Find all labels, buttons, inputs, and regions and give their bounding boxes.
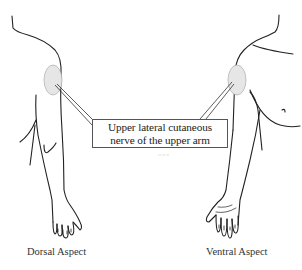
dorsal-aspect-caption: Dorsal Aspect xyxy=(27,246,86,257)
left-nerve-area xyxy=(44,65,62,95)
nerve-label-line1: Upper lateral cutaneous xyxy=(93,121,227,134)
nerve-label-box: Upper lateral cutaneous nerve of the upp… xyxy=(92,119,228,148)
ventral-aspect-caption: Ventral Aspect xyxy=(206,246,268,257)
artist-signature: ~ ~ ~ xyxy=(158,153,169,158)
dorsal-figure xyxy=(12,16,82,238)
nerve-label-line2: nerve of the upper arm xyxy=(93,134,227,147)
right-nerve-area xyxy=(228,65,246,95)
